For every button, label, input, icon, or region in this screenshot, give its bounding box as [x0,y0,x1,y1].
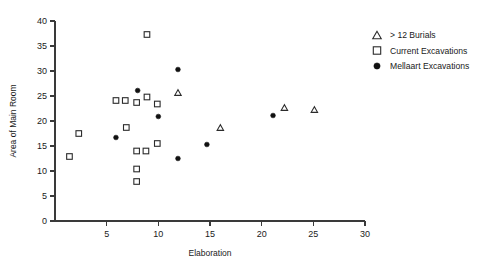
legend-marker-circle-filled [374,63,380,69]
legend-entry: Mellaart Excavations [374,61,469,71]
data-point [144,32,150,38]
y-tick-label: 5 [42,191,47,201]
data-point [217,125,223,131]
x-tick-label: 15 [205,229,215,239]
data-point [76,131,82,137]
data-point [205,142,210,147]
data-point [143,148,149,154]
data-point [175,90,181,96]
data-point [155,101,161,107]
data-point [124,125,130,131]
axes: 051015202530354051015202530 [37,16,370,239]
data-point [134,100,140,106]
y-tick-label: 20 [37,116,47,126]
y-tick-label: 15 [37,141,47,151]
data-point [122,98,128,104]
series-current-excavations [67,32,160,185]
data-point [155,141,161,147]
data-point [134,148,140,154]
x-tick-label: 30 [360,229,370,239]
y-tick-label: 30 [37,66,47,76]
x-tick-label: 20 [257,229,267,239]
y-tick-label: 0 [42,216,47,226]
data-point [271,113,276,118]
y-tick-label: 10 [37,166,47,176]
x-tick-label: 10 [153,229,163,239]
y-tick-label: 40 [37,16,47,26]
legend-label: > 12 Burials [390,30,436,40]
x-tick-label: 25 [308,229,318,239]
data-point [156,114,161,119]
series-12-burials [175,90,318,131]
data-point [113,98,119,104]
y-tick-label: 25 [37,91,47,101]
x-tick-label: 5 [104,229,109,239]
scatter-plot-figure: 051015202530354051015202530 ElaborationA… [0,0,488,266]
y-axis-title: Area of Main Room [8,84,18,157]
legend: > 12 BurialsCurrent ExcavationsMellaart … [373,30,470,71]
data-point [134,166,140,172]
series-mellaart-excavations [114,67,276,161]
data-points [67,32,318,185]
legend-label: Current Excavations [390,46,467,56]
data-point [144,94,150,100]
legend-entry: > 12 Burials [373,30,436,40]
legend-marker-triangle-open [373,31,382,38]
legend-marker-square-open [373,47,380,54]
data-point [135,88,140,93]
data-point [176,156,181,161]
plot-canvas: 051015202530354051015202530 ElaborationA… [0,0,488,266]
data-point [134,179,140,185]
data-point [114,135,119,140]
legend-entry: Current Excavations [373,46,467,56]
data-point [281,105,287,111]
data-point [176,67,181,72]
data-point [311,107,317,113]
data-point [67,154,73,160]
legend-label: Mellaart Excavations [390,61,469,71]
y-tick-label: 35 [37,41,47,51]
x-axis-title: Elaboration [188,248,231,258]
